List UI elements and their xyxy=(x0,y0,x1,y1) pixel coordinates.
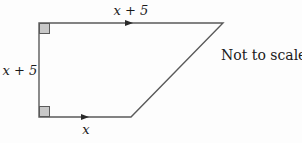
parallel-arrow-top xyxy=(125,20,133,26)
not-to-scale-note: Not to scale xyxy=(221,47,302,63)
right-angle-marker-bottom-left xyxy=(40,107,50,117)
trapezium-diagram: x + 5 x + 5 x Not to scale xyxy=(0,0,302,143)
parallel-arrow-bottom xyxy=(81,114,89,120)
trapezium-shape xyxy=(39,23,223,117)
diagram-canvas: x + 5 x + 5 x Not to scale xyxy=(0,0,302,143)
right-angle-marker-top-left xyxy=(40,24,50,34)
left-side-label: x + 5 xyxy=(3,63,38,78)
bottom-side-label: x xyxy=(82,122,90,137)
top-side-label: x + 5 xyxy=(114,3,149,18)
